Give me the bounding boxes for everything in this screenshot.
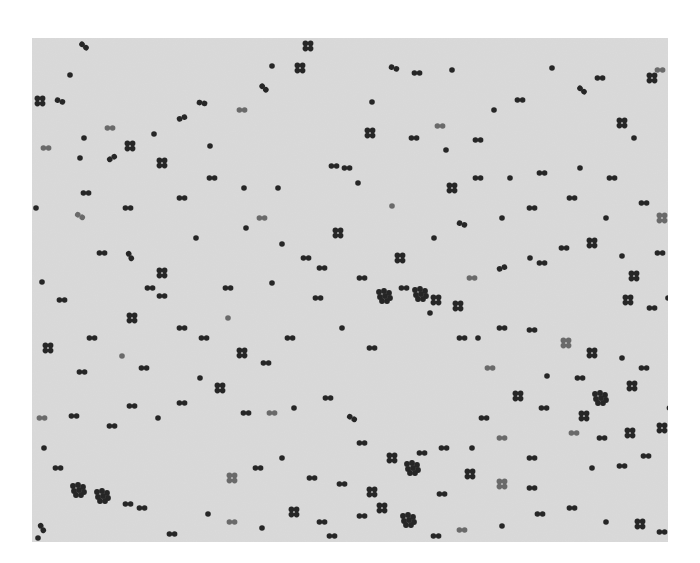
bacterium-cluster <box>33 205 39 211</box>
bacterium-cluster <box>449 67 455 73</box>
bacterium-cluster <box>275 185 281 191</box>
bacterium-cluster <box>119 353 125 359</box>
bacterium-cluster <box>279 241 285 247</box>
bacterium-cluster <box>77 155 83 161</box>
bacterium-cluster <box>39 279 45 285</box>
bacterium-cluster <box>197 375 203 381</box>
bacterium-cluster <box>35 535 41 541</box>
bacterium-cluster <box>269 63 275 69</box>
bacterium-cluster <box>427 310 433 316</box>
bacterium-cluster <box>81 135 87 141</box>
bacterium-cluster <box>259 525 265 531</box>
bacterium-cluster <box>499 215 505 221</box>
bacterium-cluster <box>475 335 481 341</box>
bacterium-cluster <box>443 147 449 153</box>
bacteria-micrograph <box>32 38 668 542</box>
bacterium-cluster <box>193 235 199 241</box>
bacterium-cluster <box>527 255 533 261</box>
bacterium-cluster <box>507 175 513 181</box>
bacterium-cluster <box>269 280 275 286</box>
bacterium-cluster <box>603 215 609 221</box>
bacterium-cluster <box>431 235 437 241</box>
bacterium-cluster <box>151 131 157 137</box>
bacterium-cluster <box>279 455 285 461</box>
bacterium-cluster <box>291 405 297 411</box>
bacterium-cluster <box>207 143 213 149</box>
bacterium-cluster <box>155 415 161 421</box>
bacterium-cluster <box>339 325 345 331</box>
bacterium-cluster <box>355 180 361 186</box>
micrograph-field <box>32 38 668 542</box>
bacterium-cluster <box>631 135 637 141</box>
bacterium-cluster <box>589 465 595 471</box>
bacterium-cluster <box>549 65 555 71</box>
bacterium-cluster <box>469 445 475 451</box>
bacterium-cluster <box>205 511 211 517</box>
bacterium-cluster <box>577 165 583 171</box>
bacterium-cluster <box>369 99 375 105</box>
bacterium-cluster <box>619 355 625 361</box>
bacterium-cluster <box>499 523 505 529</box>
bacterium-cluster <box>619 253 625 259</box>
bacterium-cluster <box>491 107 497 113</box>
bacterium-cluster <box>243 225 249 231</box>
bacterium-cluster <box>241 185 247 191</box>
bacterium-cluster <box>225 315 231 321</box>
bacterium-cluster <box>603 519 609 525</box>
bacterium-cluster <box>544 373 550 379</box>
bacterium-cluster <box>67 72 73 78</box>
bacterium-cluster <box>41 445 47 451</box>
bacterium-cluster <box>389 203 395 209</box>
